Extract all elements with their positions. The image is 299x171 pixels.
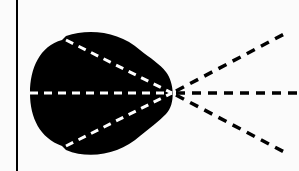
outer-ray-lower xyxy=(176,95,288,154)
outer-ray-upper xyxy=(176,32,288,91)
radiation-pattern-diagram xyxy=(0,0,299,171)
diagram-canvas xyxy=(0,0,299,171)
outer-dashed-rays xyxy=(176,32,299,154)
